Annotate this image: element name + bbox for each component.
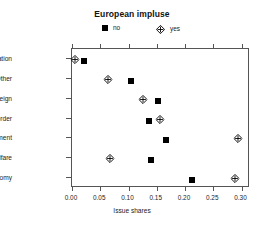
x-axis-tick-bottom [242,186,243,191]
x-tick-label: 0.25 [206,194,218,201]
filled-square-icon [102,25,108,31]
y-tick-label: Environment [0,134,12,141]
y-axis-tick [66,137,71,138]
y-tick-label: Law and order [0,114,12,121]
y-tick-label: Other [0,74,12,81]
filled-square-icon [155,98,161,104]
y-tick-label: Welfare [0,154,12,161]
legend-entry-no: no [102,25,120,32]
x-axis-tick-top [213,44,214,49]
x-axis-tick-bottom [100,186,101,191]
x-axis-tick-top [100,44,101,49]
x-tick-label: 0.15 [150,194,162,201]
filled-square-icon [163,137,169,143]
x-tick-label: 0.10 [121,194,133,201]
crossed-diamond-icon [230,174,239,183]
crossed-diamond-icon [233,134,242,143]
data-point-no [155,90,161,108]
y-axis-tick [66,98,71,99]
legend-label-no: no [113,25,120,32]
x-axis-tick-top [157,44,158,49]
y-axis-tick [66,118,71,119]
x-axis-tick-top [185,44,186,49]
crossed-diamond-icon [106,154,115,163]
chart-legend: no yes [98,25,208,37]
y-tick-label: Foreign [0,94,12,101]
data-point-no [189,169,195,187]
x-tick-label: 0.05 [93,194,105,201]
data-point-yes [70,50,79,68]
y-axis-tick [66,78,71,79]
plot-area [71,48,249,187]
data-point-no [81,50,87,68]
dot-plot-chart: European impluse no yes ReunificationOth… [0,0,264,235]
filled-square-icon [189,177,195,183]
data-point-no [163,129,169,147]
data-point-no [128,70,134,88]
y-axis-tick [66,157,71,158]
x-axis-tick-bottom [213,186,214,191]
x-tick-label: 0.00 [65,194,77,201]
filled-square-icon [146,118,152,124]
data-point-yes [155,110,164,128]
crossed-diamond-icon [70,55,79,64]
y-axis-tick [66,58,71,59]
x-tick-label: 0.20 [178,194,190,201]
filled-square-icon [81,58,87,64]
filled-square-icon [148,157,154,163]
x-axis-tick-top [129,44,130,49]
filled-square-icon [128,78,134,84]
crossed-diamond-icon [103,75,112,84]
crossed-diamond-icon [156,25,165,34]
crossed-diamond-icon [138,95,147,104]
x-axis-tick-bottom [72,186,73,191]
data-point-yes [138,90,147,108]
chart-title: European impluse [0,9,264,19]
x-axis-tick-top [242,44,243,49]
data-point-yes [230,169,239,187]
x-axis-tick-bottom [157,186,158,191]
x-axis-tick-bottom [185,186,186,191]
crossed-diamond-icon [155,115,164,124]
x-axis-tick-bottom [129,186,130,191]
x-tick-label: 0.30 [234,194,246,201]
data-point-yes [106,149,115,167]
data-point-no [146,110,152,128]
legend-label-yes: yes [170,26,180,33]
y-tick-label: Economy [0,174,12,181]
data-point-yes [103,70,112,88]
y-tick-label: Reunification [0,54,12,61]
data-point-yes [233,129,242,147]
y-axis-tick [66,177,71,178]
x-axis-title: Issue shares [0,207,264,214]
data-point-no [148,149,154,167]
legend-entry-yes: yes [156,25,180,34]
x-axis-tick-top [72,44,73,49]
